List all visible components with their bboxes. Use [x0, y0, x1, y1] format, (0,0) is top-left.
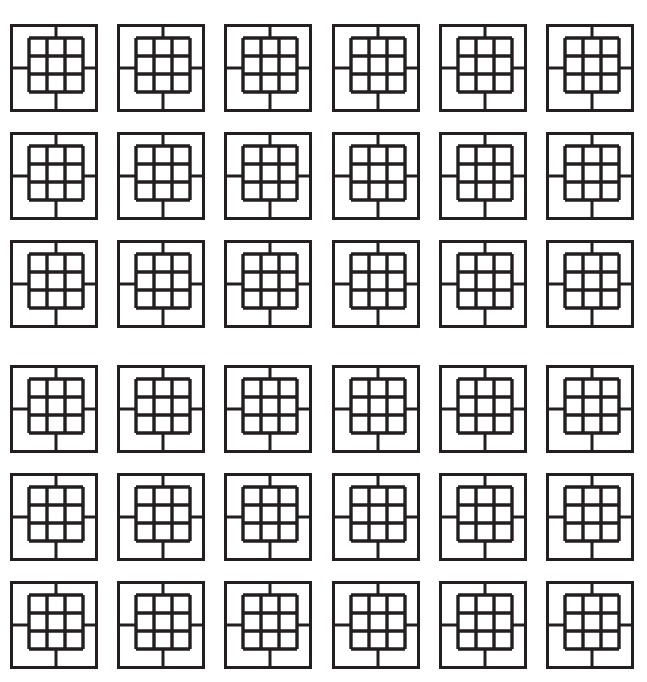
pattern-tile — [220, 128, 316, 224]
tile-inner-grid — [565, 38, 619, 92]
tile-inner-grid — [29, 595, 83, 649]
pattern-tile — [542, 469, 638, 565]
pattern-tile — [542, 20, 638, 116]
tile-grid — [0, 0, 647, 682]
tile-inner-grid — [565, 146, 619, 200]
pattern-tile — [6, 128, 102, 224]
tile-inner-grid — [458, 38, 512, 92]
tile-inner-grid — [458, 595, 512, 649]
tile-inner-grid — [29, 146, 83, 200]
tile-inner-grid — [243, 146, 297, 200]
tile-inner-grid — [136, 38, 190, 92]
tile-inner-grid — [458, 379, 512, 433]
pattern-tile — [113, 577, 209, 673]
pattern-tile — [113, 20, 209, 116]
tile-inner-grid — [243, 379, 297, 433]
pattern-tile — [328, 20, 424, 116]
tile-inner-grid — [351, 595, 405, 649]
pattern-tile — [435, 20, 531, 116]
tile-inner-grid — [136, 254, 190, 308]
pattern-tile — [328, 236, 424, 332]
tile-inner-grid — [351, 254, 405, 308]
pattern-tile — [220, 361, 316, 457]
tile-inner-grid — [136, 379, 190, 433]
tile-inner-grid — [243, 487, 297, 541]
pattern-tile — [6, 361, 102, 457]
pattern-tile — [328, 361, 424, 457]
pattern-tile — [435, 577, 531, 673]
tile-inner-grid — [243, 595, 297, 649]
tile-inner-grid — [565, 254, 619, 308]
tile-inner-grid — [458, 146, 512, 200]
tile-inner-grid — [29, 379, 83, 433]
tile-inner-grid — [29, 487, 83, 541]
tile-inner-grid — [136, 146, 190, 200]
pattern-tile — [435, 128, 531, 224]
pattern-tile — [113, 128, 209, 224]
pattern-tile — [113, 469, 209, 565]
pattern-tile — [328, 577, 424, 673]
tile-inner-grid — [458, 487, 512, 541]
tile-inner-grid — [29, 254, 83, 308]
tile-inner-grid — [351, 487, 405, 541]
pattern-tile — [328, 128, 424, 224]
pattern-tile — [435, 469, 531, 565]
tile-inner-grid — [351, 146, 405, 200]
pattern-tile — [6, 20, 102, 116]
pattern-tile — [220, 469, 316, 565]
pattern-tile — [542, 128, 638, 224]
tile-inner-grid — [458, 254, 512, 308]
pattern-tile — [220, 577, 316, 673]
tile-inner-grid — [351, 379, 405, 433]
tile-inner-grid — [243, 38, 297, 92]
pattern-tile — [220, 236, 316, 332]
pattern-tile — [328, 469, 424, 565]
pattern-tile — [542, 361, 638, 457]
pattern-tile — [435, 236, 531, 332]
pattern-tile — [542, 236, 638, 332]
tile-inner-grid — [136, 595, 190, 649]
tile-inner-grid — [29, 38, 83, 92]
tile-inner-grid — [136, 487, 190, 541]
pattern-tile — [220, 20, 316, 116]
pattern-tile — [113, 236, 209, 332]
tile-inner-grid — [565, 379, 619, 433]
tile-inner-grid — [351, 38, 405, 92]
pattern-tile — [6, 577, 102, 673]
tile-inner-grid — [565, 487, 619, 541]
pattern-tile — [542, 577, 638, 673]
pattern-tile — [6, 236, 102, 332]
tile-inner-grid — [565, 595, 619, 649]
pattern-tile — [435, 361, 531, 457]
tile-inner-grid — [243, 254, 297, 308]
pattern-tile — [6, 469, 102, 565]
pattern-canvas — [0, 0, 647, 682]
pattern-tile — [113, 361, 209, 457]
